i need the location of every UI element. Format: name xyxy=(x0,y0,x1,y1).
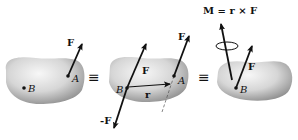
point-a-label: A xyxy=(71,73,79,84)
point-b-dot xyxy=(22,86,26,90)
neg-force-label: -F xyxy=(100,115,111,126)
point-a-dot xyxy=(66,74,70,78)
moment-rotation-indicator xyxy=(216,42,238,50)
point-b-dot xyxy=(234,86,238,90)
force-couple-diagram: F A B ≡ F F -F r A B ≡ M = r × F F B xyxy=(0,0,298,140)
force-f-label: F xyxy=(142,65,149,76)
point-b-label: B xyxy=(115,84,123,95)
point-b-label: B xyxy=(27,83,35,94)
panel-2: F F -F r A B xyxy=(100,31,189,128)
force-label: F xyxy=(67,37,74,48)
equivalence-symbol-1: ≡ xyxy=(88,69,100,85)
point-a-label: A xyxy=(177,75,185,86)
point-a-dot xyxy=(172,74,176,78)
force-f-at-a-label: F xyxy=(178,31,185,42)
equivalence-symbol-2: ≡ xyxy=(198,69,210,85)
point-b-dot xyxy=(125,86,129,90)
position-vector-label: r xyxy=(145,89,151,100)
panel-1: F A B xyxy=(6,37,85,104)
point-b-label: B xyxy=(239,84,247,95)
force-label: F xyxy=(248,61,255,72)
moment-equation: M = r × F xyxy=(203,5,257,16)
panel-3: M = r × F F B xyxy=(203,5,292,101)
